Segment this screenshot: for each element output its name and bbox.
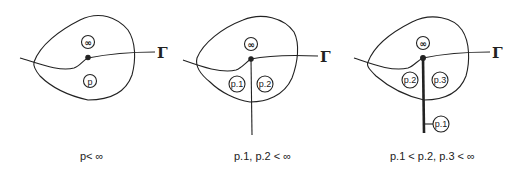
node-p3-label: p.3	[434, 75, 447, 85]
panel-3-drawing	[354, 17, 490, 133]
region-outline	[197, 16, 298, 102]
caption-panel-2: p.1, p.2 < ∞	[234, 150, 291, 162]
junction-point	[421, 56, 426, 61]
node-infinity-label: ∞	[247, 40, 255, 50]
gamma-label: Γ	[492, 44, 503, 62]
gamma-label: Γ	[320, 48, 331, 66]
node-p1-label: p.1	[231, 79, 244, 89]
vertical-branch	[251, 59, 252, 135]
region-outline	[367, 17, 468, 100]
junction-point	[86, 55, 90, 59]
panel-1-drawing	[20, 15, 155, 100]
node-p-label: p	[87, 77, 92, 87]
panel-2-drawing	[183, 16, 318, 135]
caption-panel-3: p.1 < p.2, p.3 < ∞	[390, 150, 475, 162]
node-p1-label: p.1	[435, 119, 448, 129]
gamma-label: Γ	[157, 44, 168, 62]
diagram-canvas: Γ ∞ p Γ ∞ p.1 p.2 Γ ∞ p.2 p.3 p.1	[0, 0, 515, 175]
junction-point	[249, 57, 253, 61]
node-p2-label: p.2	[259, 79, 272, 89]
node-infinity-label: ∞	[419, 39, 427, 49]
caption-panel-1: p< ∞	[80, 150, 103, 162]
thick-branch	[423, 58, 424, 133]
region-outline	[34, 15, 135, 100]
node-infinity-label: ∞	[84, 38, 92, 48]
node-p2-label: p.2	[404, 75, 417, 85]
